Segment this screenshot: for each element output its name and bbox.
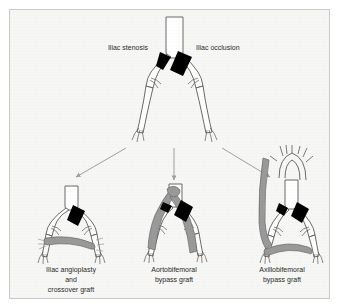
opt3-iliac-branches: [273, 227, 310, 236]
option2-caption-line1: Aortobifemoral: [151, 266, 197, 273]
option-iliac-angioplasty-crossover-graft: Iliac angioplasty and crossover graft: [38, 186, 105, 294]
opt1-left-iliac: [46, 208, 69, 236]
option3-caption-line2: bypass graft: [263, 276, 301, 284]
arrow-to-left-option: [76, 148, 126, 177]
option3-caption-line1: Axillobifemoral: [259, 266, 305, 273]
option1-caption-line2: and: [65, 276, 77, 283]
figure-root: Iliac stenosis Iliac occlusion: [0, 0, 339, 308]
option1-caption-line1: Iliac angioplasty: [46, 266, 96, 274]
arrows-group: [76, 148, 270, 180]
opt3-aortic-arch: [279, 153, 306, 180]
opt1-aorta-trunk: [65, 186, 78, 210]
option2-caption-line2: bypass graft: [155, 276, 193, 284]
right-femoral-artery: [196, 86, 212, 133]
option-aortobifemoral-bypass-graft: Aortobifemoral bypass graft: [144, 184, 207, 284]
option1-caption-line3: crossover graft: [48, 286, 94, 294]
option-axillobifemoral-bypass-graft: Axillobifemoral bypass graft: [259, 145, 323, 284]
aorta-trunk: [166, 17, 183, 58]
opt1-iliac-branches: [51, 226, 92, 235]
left-femoral-artery: [137, 86, 153, 133]
top-diagram-group: Iliac stenosis Iliac occlusion: [108, 17, 240, 142]
label-iliac-stenosis: Iliac stenosis: [108, 44, 149, 51]
medical-diagram-canvas: Iliac stenosis Iliac occlusion: [0, 0, 339, 308]
label-iliac-occlusion: Iliac occlusion: [196, 44, 240, 51]
opt1-crossover-graft: [44, 237, 95, 249]
opt3-aortic-arch-inner: [285, 160, 300, 180]
